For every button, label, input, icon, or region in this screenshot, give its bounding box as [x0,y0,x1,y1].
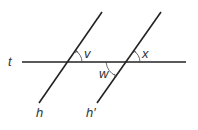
label-h: h [36,105,43,120]
angle-v-arc [76,51,82,62]
line-h-prime [97,12,161,103]
label-angle-x: x [141,46,149,61]
label-h-prime: h′ [86,105,96,120]
line-h [39,12,102,103]
label-t: t [8,54,13,69]
label-angle-v: v [84,46,92,61]
label-angle-w: w [99,66,110,81]
geometry-diagram: t h h′ v x w [0,0,198,130]
angle-x-arc [134,51,140,62]
